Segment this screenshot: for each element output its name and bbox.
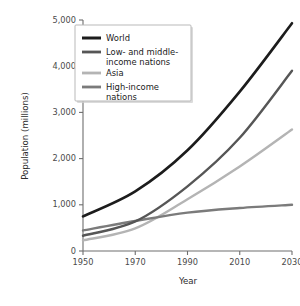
y-axis-tick-labels: 01,0002,0003,0004,0005,000 bbox=[53, 15, 76, 256]
chart-legend: WorldLow- and middle-income nationsAsiaH… bbox=[75, 25, 193, 103]
x-axis-title: Year bbox=[178, 276, 198, 286]
x-axis-ticks bbox=[83, 251, 292, 255]
legend-label: Low- and middle- bbox=[106, 47, 178, 57]
y-axis-title: Population (millions) bbox=[20, 92, 30, 180]
x-tick-label: 1970 bbox=[125, 257, 146, 267]
y-tick-label: 2,000 bbox=[53, 153, 76, 163]
y-tick-label: 0 bbox=[71, 246, 76, 256]
legend-label: Asia bbox=[106, 68, 124, 78]
x-axis-tick-labels: 19501970199020102030 bbox=[73, 257, 300, 267]
x-tick-label: 2030 bbox=[282, 257, 300, 267]
x-tick-label: 2010 bbox=[229, 257, 250, 267]
series-line-high-income-nations bbox=[83, 205, 292, 231]
x-tick-label: 1950 bbox=[73, 257, 94, 267]
legend-label: World bbox=[106, 33, 130, 43]
y-tick-label: 3,000 bbox=[53, 107, 76, 117]
line-chart: 01,0002,0003,0004,0005,000 1950197019902… bbox=[0, 0, 300, 306]
legend-label-line2: nations bbox=[106, 92, 137, 102]
y-tick-label: 1,000 bbox=[53, 199, 76, 209]
legend-label: High-income bbox=[106, 82, 159, 92]
y-tick-label: 4,000 bbox=[53, 61, 76, 71]
chart-figure: 01,0002,0003,0004,0005,000 1950197019902… bbox=[0, 0, 300, 306]
legend-label-line2: income nations bbox=[106, 57, 170, 67]
x-tick-label: 1990 bbox=[177, 257, 198, 267]
y-tick-label: 5,000 bbox=[53, 15, 76, 25]
